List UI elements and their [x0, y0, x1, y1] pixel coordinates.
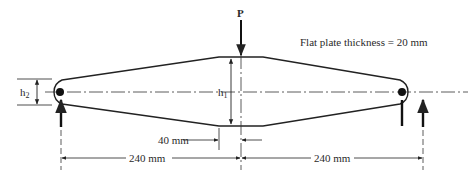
beam-diagram: P Flat plate thickness = 20 mm h1 h2 40 …	[0, 0, 470, 177]
load-label: P	[237, 7, 244, 19]
gap-dimension-label: 40 mm	[158, 134, 189, 146]
h2-label: h2	[20, 86, 30, 100]
plate-thickness-note: Flat plate thickness = 20 mm	[300, 36, 428, 48]
left-pin-icon	[56, 88, 64, 96]
left-span-label: 240 mm	[129, 152, 166, 164]
h1-label: h1	[218, 86, 228, 100]
right-pin-icon	[398, 88, 406, 96]
right-span-label: 240 mm	[314, 152, 351, 164]
